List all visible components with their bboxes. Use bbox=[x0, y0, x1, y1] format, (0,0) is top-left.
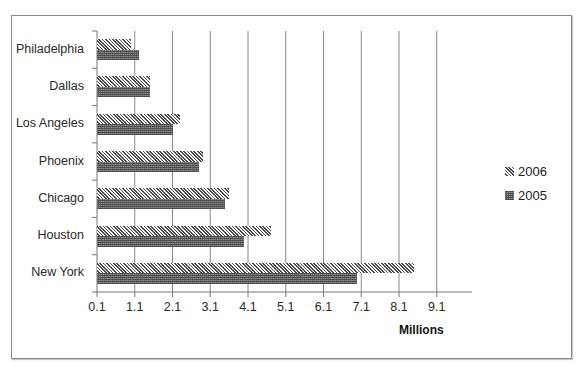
legend-label-2005: 2005 bbox=[518, 188, 547, 203]
bar-philadelphia-2005 bbox=[97, 50, 139, 61]
legend-item-2006: 2006 bbox=[505, 164, 547, 179]
bar-houston-2006 bbox=[97, 226, 271, 237]
category-label: New York bbox=[0, 265, 84, 279]
category-label: Philadelphia bbox=[0, 42, 84, 56]
x-tick-label: 9.1 bbox=[417, 300, 457, 314]
bar-dallas-2005 bbox=[97, 87, 150, 98]
category-label: Phoenix bbox=[0, 154, 84, 168]
category-label: Dallas bbox=[0, 79, 84, 93]
legend-swatch-2005-icon bbox=[505, 191, 514, 200]
category-label: Los Angeles bbox=[0, 116, 84, 130]
legend-label-2006: 2006 bbox=[518, 164, 547, 179]
x-tick-label: 8.1 bbox=[379, 300, 419, 314]
bar-phoenix-2006 bbox=[97, 151, 203, 162]
bar-los-angeles-2005 bbox=[97, 124, 173, 135]
bar-new-york-2005 bbox=[97, 273, 357, 284]
legend-item-2005: 2005 bbox=[505, 188, 547, 203]
bar-philadelphia-2006 bbox=[97, 39, 131, 50]
x-tick-label: 4.1 bbox=[228, 300, 268, 314]
category-label: Chicago bbox=[0, 191, 84, 205]
legend-swatch-2006-icon bbox=[505, 167, 514, 176]
bar-dallas-2006 bbox=[97, 76, 150, 87]
bar-phoenix-2005 bbox=[97, 162, 199, 173]
x-tick-label: 5.1 bbox=[266, 300, 306, 314]
x-tick-label: 7.1 bbox=[341, 300, 381, 314]
bar-chicago-2005 bbox=[97, 199, 225, 210]
x-tick-label: 2.1 bbox=[153, 300, 193, 314]
bar-chicago-2006 bbox=[97, 188, 229, 199]
bar-los-angeles-2006 bbox=[97, 114, 180, 125]
x-tick-label: 1.1 bbox=[115, 300, 155, 314]
category-label: Houston bbox=[0, 228, 84, 242]
x-axis-title: Millions bbox=[399, 323, 444, 337]
x-tick-label: 6.1 bbox=[304, 300, 344, 314]
bar-houston-2005 bbox=[97, 236, 244, 247]
x-tick-label: 0.1 bbox=[77, 300, 117, 314]
bar-new-york-2006 bbox=[97, 263, 414, 274]
x-tick-label: 3.1 bbox=[190, 300, 230, 314]
